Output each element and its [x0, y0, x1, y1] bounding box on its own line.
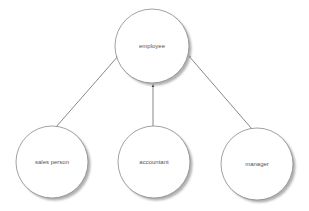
node-manager[interactable]: manager: [221, 128, 296, 203]
inheritance-diagram: employee sales person accountant manager: [0, 0, 309, 211]
node-accountant[interactable]: accountant: [118, 126, 193, 201]
node-label-employee: employee: [139, 43, 166, 49]
edge-sales-person-to-employee: [56, 55, 119, 127]
node-label-manager: manager: [245, 161, 269, 167]
node-label-accountant: accountant: [139, 159, 169, 165]
node-label-sales-person: sales person: [35, 159, 69, 165]
node-sales-person[interactable]: sales person: [16, 126, 91, 201]
edge-manager-to-employee: [188, 55, 252, 129]
node-employee[interactable]: employee: [115, 9, 192, 86]
